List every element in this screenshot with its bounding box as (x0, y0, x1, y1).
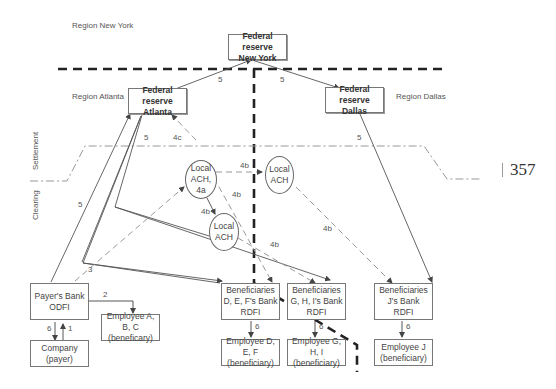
edge-label-ghi-6: 6 (319, 322, 323, 331)
edge-label-dallas-settle: 5 (357, 133, 361, 142)
edge-label-j-6: 6 (406, 322, 410, 331)
edge-label-4b-lower: 4b (270, 240, 279, 249)
edge-label-4b-right: 4b (240, 161, 249, 170)
node-employee-abc: Employee A, B, C (beneficary) (101, 314, 160, 341)
layer-label-settlement: Settlement (31, 132, 40, 170)
edge-label-ny-atlanta: 5 (218, 75, 222, 84)
edge-label-ny-dallas: 5 (280, 75, 284, 84)
edge-label-4b-down: 4b (201, 207, 210, 216)
edge-label-2: 2 (103, 290, 107, 299)
node-fed-reserve-new-york: Federal reserve New York (228, 34, 287, 60)
layer-label-clearing: Clearing (31, 190, 40, 220)
node-employee-ghi: Employee G, H, I (beneficiary) (287, 339, 346, 366)
edge-label-atlanta-settle: 5 (144, 133, 148, 142)
node-payers-bank: Payer's Bank ODFI (30, 283, 89, 320)
node-bank-j: Beneficiaries J's Bank RDFI (374, 283, 433, 320)
node-fed-reserve-dallas: Federal reserve Dallas (325, 87, 384, 113)
edge-label-company-6: 6 (47, 324, 51, 333)
node-employee-j: Employee J (beneficiary) (374, 339, 433, 366)
node-local-ach-4a: Local ACH, 4a (185, 160, 217, 199)
region-label-dallas: Region Dallas (396, 92, 446, 101)
edge-label-def-6: 6 (255, 322, 259, 331)
node-company: Company (payer) (30, 340, 89, 367)
ach-flows (75, 115, 392, 283)
region-label-atlanta: Region Atlanta (72, 92, 124, 101)
edge-label-company-1: 1 (68, 324, 72, 333)
node-bank-def: Beneficiaries D, E, F's Bank RDFI (221, 283, 280, 320)
node-local-ach-lower: Local ACH (209, 213, 239, 251)
region-label-new-york: Region New York (72, 21, 133, 30)
node-bank-ghi: Beneficiaries G, H, I's Bank RDFI (287, 283, 346, 320)
node-employee-def: Employee D, E, F (beneficiary) (221, 339, 280, 366)
edge-label-4b-right-down: 4b (323, 224, 332, 233)
edge-label-atlanta-left: 5 (78, 200, 82, 209)
edge-label-4b-diag: 4b (232, 190, 241, 199)
clearing-flows-3 (83, 207, 330, 283)
edge-label-3: 3 (88, 265, 92, 274)
edge-label-4c: 4c (173, 133, 181, 142)
page-number: 357 (510, 160, 536, 180)
page-number-divider (502, 163, 503, 177)
node-local-ach-right: Local ACH (265, 156, 294, 194)
node-fed-reserve-atlanta: Federal reserve Atlanta (128, 88, 187, 114)
